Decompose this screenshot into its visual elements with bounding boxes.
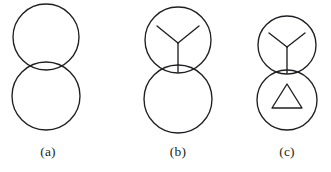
panel-c-bottom-circle — [257, 70, 317, 130]
panel-a — [12, 4, 80, 130]
panel-c-y-junction-icon — [269, 33, 305, 73]
panel-b-bottom-circle — [144, 65, 212, 133]
caption-b: (b) — [143, 144, 213, 160]
figure-panel: (a) (b) (c) — [0, 0, 331, 172]
panel-c-triangle-icon — [272, 84, 302, 108]
panel-a-bottom-circle — [12, 62, 80, 130]
panel-b-y-junction-icon — [157, 26, 199, 72]
panel-b — [144, 7, 212, 133]
panel-b-y-right-arm — [178, 26, 199, 43]
panel-c-y-left-arm — [269, 33, 287, 47]
panel-c — [257, 16, 317, 130]
caption-a: (a) — [16, 144, 80, 160]
panel-a-top-circle — [13, 4, 79, 70]
panel-b-y-left-arm — [157, 26, 178, 43]
panel-c-y-right-arm — [287, 33, 305, 47]
caption-c: (c) — [255, 144, 319, 160]
